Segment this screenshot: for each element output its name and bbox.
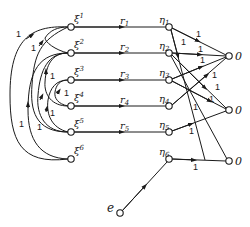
xi-labels: ξ1 ξ2 ξ3 ξ4 ξ5 ξ6 <box>74 12 85 156</box>
svg-text:1: 1 <box>37 122 42 132</box>
node-xi3[interactable] <box>68 77 74 83</box>
svg-text:1: 1 <box>193 162 198 172</box>
svg-text:ξ5: ξ5 <box>74 117 85 129</box>
svg-text:r2: r2 <box>120 41 130 54</box>
diagram-svg: ξ1 ξ2 ξ3 ξ4 ξ5 ξ6 r1 r2 r3 r4 r5 η1 η2 η… <box>0 0 250 227</box>
svg-text:ξ1: ξ1 <box>74 12 84 24</box>
svg-text:η1: η1 <box>159 14 169 27</box>
feedback-arcs <box>10 27 68 160</box>
r-labels: r1 r2 r3 r4 r5 <box>120 15 130 133</box>
svg-text:η2: η2 <box>159 40 170 53</box>
svg-text:1: 1 <box>193 102 198 112</box>
svg-text:r3: r3 <box>120 68 130 81</box>
network-diagram: ξ1 ξ2 ξ3 ξ4 ξ5 ξ6 r1 r2 r3 r4 r5 η1 η2 η… <box>0 0 250 227</box>
node-source-e[interactable] <box>117 210 123 216</box>
svg-text:1: 1 <box>200 55 205 65</box>
output-nodes <box>226 53 232 164</box>
svg-text:0: 0 <box>235 155 242 168</box>
node-output-2[interactable] <box>226 107 232 113</box>
svg-text:1: 1 <box>50 108 55 118</box>
svg-text:ξ4: ξ4 <box>74 91 84 103</box>
node-xi5[interactable] <box>68 129 74 135</box>
svg-text:η6: η6 <box>159 146 170 159</box>
svg-text:1: 1 <box>189 126 194 136</box>
node-xi4[interactable] <box>68 103 74 109</box>
eta-labels: η1 η2 η3 η4 η5 η6 <box>159 14 170 159</box>
right-edge-weights: 1 1 1 1 1 1 1 1 1 1 <box>181 29 220 172</box>
svg-text:η5: η5 <box>159 119 170 132</box>
svg-text:1: 1 <box>212 70 217 80</box>
svg-text:η4: η4 <box>159 93 169 106</box>
svg-text:1: 1 <box>16 29 21 39</box>
node-output-1[interactable] <box>226 53 232 59</box>
svg-text:η3: η3 <box>159 67 170 80</box>
svg-text:1: 1 <box>181 37 186 47</box>
left-arc-weights: 1 1 1 1 1 1 1 <box>16 29 69 132</box>
svg-text:r1: r1 <box>120 15 129 28</box>
svg-text:1: 1 <box>209 94 214 104</box>
svg-text:1: 1 <box>19 119 24 129</box>
node-xi2[interactable] <box>68 50 74 56</box>
node-output-3[interactable] <box>226 158 232 164</box>
svg-text:0: 0 <box>235 50 242 63</box>
svg-text:1: 1 <box>50 71 55 81</box>
svg-text:ξ3: ξ3 <box>74 65 85 77</box>
svg-text:ξ2: ξ2 <box>74 38 85 50</box>
output-edges <box>122 28 227 211</box>
svg-text:r4: r4 <box>120 94 129 107</box>
node-xi6[interactable] <box>68 156 74 162</box>
svg-text:1: 1 <box>31 43 36 53</box>
output-labels: 0 0 0 <box>235 50 242 168</box>
svg-text:1: 1 <box>215 82 220 92</box>
svg-text:r5: r5 <box>120 120 130 133</box>
svg-text:1: 1 <box>64 88 69 98</box>
svg-text:ξ6: ξ6 <box>74 144 85 156</box>
svg-text:1: 1 <box>196 29 201 39</box>
node-xi1[interactable] <box>68 24 74 30</box>
svg-text:1: 1 <box>198 44 203 54</box>
source-label: e <box>107 201 114 215</box>
svg-text:0: 0 <box>235 104 242 117</box>
